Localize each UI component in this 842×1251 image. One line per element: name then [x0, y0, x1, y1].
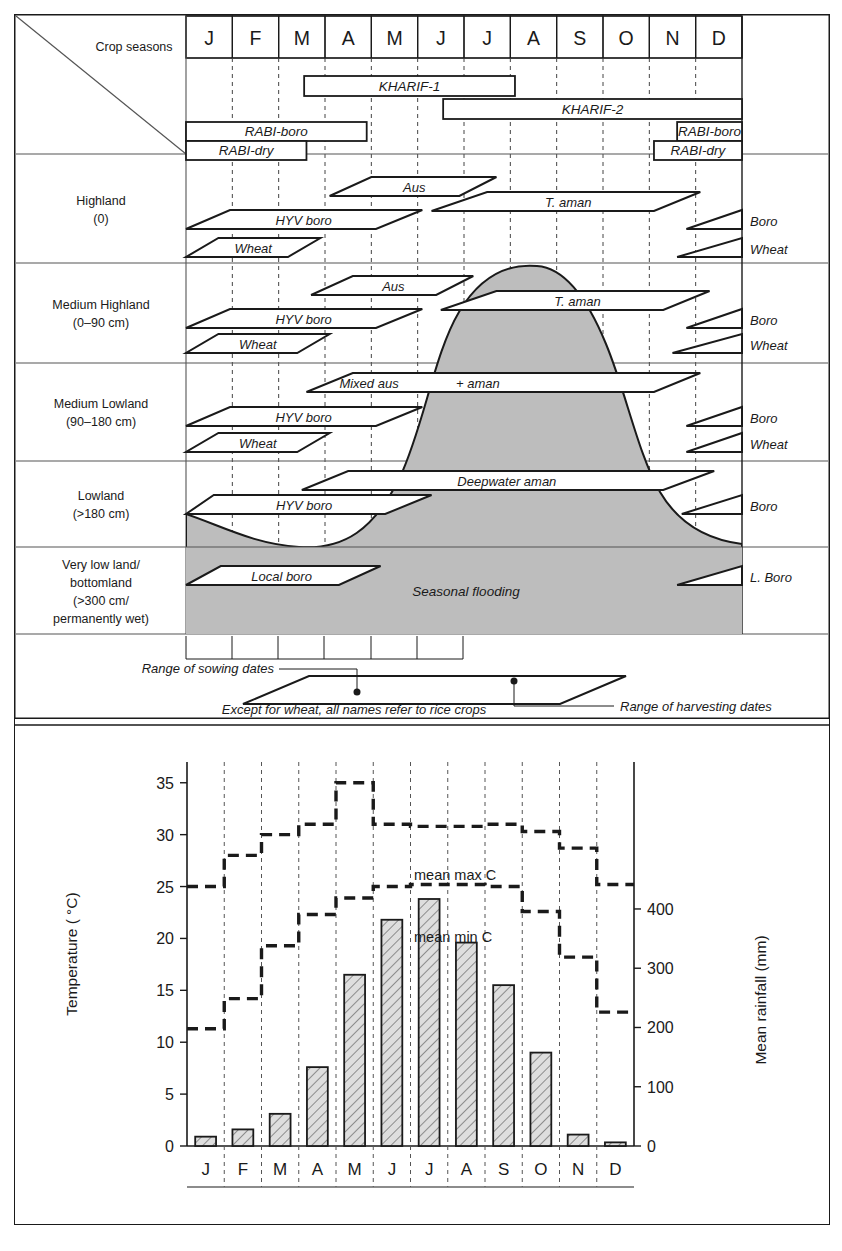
chart-month-label: J — [201, 1160, 210, 1179]
chart-month-label: J — [388, 1160, 397, 1179]
chart-month-label: N — [572, 1160, 584, 1179]
crop-bar — [686, 407, 742, 426]
crop-bar-label: Local boro — [251, 569, 312, 584]
y-tick-label: 0 — [165, 1138, 174, 1155]
crop-bar-label: Wheat — [750, 338, 789, 353]
crop-bar — [677, 238, 742, 257]
season-bar-label: RABI-boro — [245, 124, 309, 139]
chart-bar — [493, 985, 514, 1146]
chart-bar — [270, 1114, 291, 1146]
season-bar-label: RABI-dry — [671, 143, 727, 158]
chart-bar — [307, 1067, 328, 1146]
crop-bar-label: Wheat — [234, 241, 273, 256]
month-header-label: D — [712, 27, 726, 49]
seasonal-flooding-label: Seasonal flooding — [412, 584, 520, 599]
land-type-label: bottomland — [70, 576, 132, 590]
land-type-labels: Highland(0)Medium Highland(0–90 cm)Mediu… — [52, 194, 149, 626]
land-type-label: (>180 cm) — [73, 507, 130, 521]
month-header-label: J — [204, 27, 214, 49]
month-header-label: A — [342, 27, 355, 49]
crop-bar-label: Wheat — [750, 242, 789, 257]
y2-tick-label: 0 — [647, 1138, 656, 1155]
crop-bar-label: Wheat — [239, 337, 278, 352]
chart-month-label: D — [609, 1160, 621, 1179]
mean-min-annotation: mean min C — [414, 929, 492, 945]
y2-tick-label: 300 — [647, 960, 674, 977]
figure-page: Crop seasons JFMAMJJASOND Highland(0)Med — [0, 0, 842, 1251]
crop-bar-label: Mixed aus — [339, 376, 399, 391]
month-header-label: M — [294, 27, 310, 49]
month-header-label: J — [482, 27, 492, 49]
crop-bar-label: + aman — [456, 376, 500, 391]
month-header-label: M — [386, 27, 402, 49]
y-tick-label: 10 — [156, 1034, 174, 1051]
chart-bar — [195, 1137, 216, 1146]
chart-bar — [344, 975, 365, 1146]
chart-month-label: O — [534, 1160, 547, 1179]
chart-bar — [530, 1053, 551, 1146]
crop-bar-label: Boro — [750, 313, 777, 328]
chart-month-label: A — [312, 1160, 324, 1179]
chart-month-label: F — [238, 1160, 248, 1179]
crop-bar — [686, 309, 742, 328]
mean-max-annotation: mean max C — [414, 867, 496, 883]
land-type-label: Very low land/ — [62, 558, 140, 572]
land-type-label: Medium Lowland — [54, 397, 149, 411]
chart-month-label: M — [348, 1160, 362, 1179]
crop-bar-label: HYV boro — [275, 312, 331, 327]
chart-month-label: S — [498, 1160, 509, 1179]
season-bar-label: RABI-boro — [678, 124, 742, 139]
chart-month-labels: JFMAMJJASOND — [201, 1160, 621, 1179]
crop-bar-label: L. Boro — [750, 570, 792, 585]
chart-y-ticks: 05101520253035 — [156, 775, 187, 1155]
crop-bar-label: Wheat — [750, 437, 789, 452]
crop-bar-label: HYV boro — [275, 410, 331, 425]
y-tick-label: 25 — [156, 879, 174, 896]
month-header-label: J — [436, 27, 446, 49]
y2-tick-label: 100 — [647, 1079, 674, 1096]
crop-seasons-title: Crop seasons — [95, 40, 172, 54]
y-tick-label: 35 — [156, 775, 174, 792]
y-tick-label: 5 — [165, 1086, 174, 1103]
climate-chart-panel: 05101520253035 0100200300400 JFMAMJJASON… — [14, 700, 830, 1225]
chart-month-label: J — [425, 1160, 434, 1179]
month-header-label: S — [573, 27, 586, 49]
crop-bar-label: T. aman — [554, 294, 601, 309]
crop-bar — [682, 495, 742, 514]
crop-bar-label: Aus — [402, 180, 426, 195]
land-type-label: Highland — [76, 194, 125, 208]
chart-month-label: M — [273, 1160, 287, 1179]
land-type-label: (>300 cm/ — [73, 594, 129, 608]
chart-month-label: A — [461, 1160, 473, 1179]
chart-bar — [232, 1129, 253, 1146]
y2-axis-label: Mean rainfall (mm) — [752, 935, 769, 1064]
crop-bar — [673, 334, 743, 353]
y-axis-label: Temperature ( °C) — [63, 892, 80, 1015]
y2-tick-label: 200 — [647, 1019, 674, 1036]
crop-bar-label: T. aman — [545, 195, 592, 210]
season-bar-label: KHARIF-2 — [562, 102, 624, 117]
chart-bar — [456, 943, 477, 1146]
crop-bar-label: Deepwater aman — [457, 474, 556, 489]
month-header-label: N — [665, 27, 679, 49]
crop-bar-label: Boro — [750, 411, 777, 426]
month-header-row: JFMAMJJASOND — [186, 16, 742, 58]
land-type-label: (90–180 cm) — [66, 415, 136, 429]
crop-bar-label: HYV boro — [275, 213, 331, 228]
crop-bar-label: Wheat — [239, 436, 278, 451]
crop-bar-label: Boro — [750, 214, 777, 229]
y2-tick-label: 400 — [647, 901, 674, 918]
crop-calendar-panel: Crop seasons JFMAMJJASOND Highland(0)Med — [14, 14, 830, 719]
crop-bar-label: Boro — [750, 499, 777, 514]
legend-sowing-label: Range of sowing dates — [142, 661, 275, 676]
month-header-label: A — [527, 27, 540, 49]
crop-bar-label: HYV boro — [276, 498, 332, 513]
crop-bar — [686, 433, 742, 452]
land-type-label: (0–90 cm) — [73, 316, 129, 330]
y-tick-label: 20 — [156, 930, 174, 947]
season-bar-label: KHARIF-1 — [379, 79, 441, 94]
land-type-label: Lowland — [78, 489, 125, 503]
crop-bar — [686, 210, 742, 229]
chart-bar — [605, 1142, 626, 1146]
season-bar-label: RABI-dry — [219, 143, 275, 158]
